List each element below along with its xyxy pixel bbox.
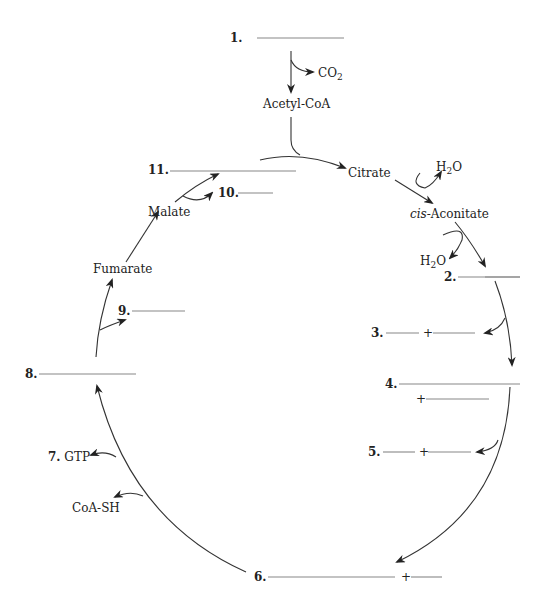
malate-label: Malate	[148, 205, 190, 219]
fumarate-label: Fumarate	[93, 262, 152, 276]
plus-5: +	[419, 445, 429, 459]
label-6: 6.	[254, 570, 267, 584]
label-2: 2.	[444, 270, 457, 284]
label-3: 3.	[371, 326, 384, 340]
label-10: 10.	[218, 186, 239, 200]
plus-3: +	[423, 326, 433, 340]
plus-6: +	[401, 570, 411, 584]
gtp-label: 7. GTP	[48, 450, 90, 464]
cis-aconitate-label: cis-Aconitate	[410, 207, 489, 221]
label-11: 11.	[148, 163, 169, 177]
cycle-lines	[0, 0, 548, 607]
h2o-release-label: H2O	[436, 160, 462, 178]
plus-4: +	[416, 392, 426, 406]
h2o-uptake-label: H2O	[420, 254, 446, 272]
label-8: 8.	[25, 367, 38, 381]
coa-sh-label: CoA-SH	[72, 501, 120, 515]
citrate-label: Citrate	[348, 166, 391, 180]
co2-label: CO2	[318, 66, 343, 84]
citric-acid-cycle-diagram: 1. CO2 Acetyl-CoA 11. 10. Citrate H2O ci…	[0, 0, 548, 607]
label-1: 1.	[230, 31, 243, 45]
label-9: 9.	[118, 304, 131, 318]
label-4: 4.	[385, 377, 398, 391]
label-5: 5.	[368, 445, 381, 459]
acetyl-coa-label: Acetyl-CoA	[263, 97, 330, 111]
